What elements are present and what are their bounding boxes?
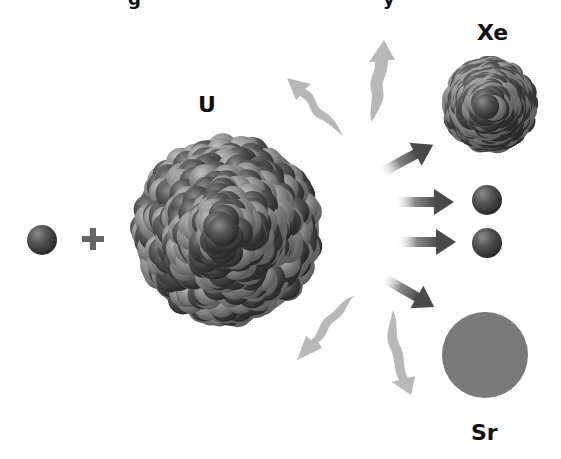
energy-wave-down-left-icon bbox=[297, 296, 354, 360]
energy-wave-down-icon bbox=[387, 310, 415, 395]
incoming-neutron bbox=[27, 225, 57, 255]
arrow-to-neutron-2-icon bbox=[398, 229, 456, 255]
plus-icon bbox=[82, 228, 104, 250]
arrow-to-neutron-1-icon bbox=[396, 189, 454, 215]
diagram-canvas bbox=[0, 0, 561, 459]
xenon-label: Xe bbox=[477, 20, 508, 45]
strontium-nucleus bbox=[442, 312, 528, 398]
energy-wave-up-icon bbox=[369, 40, 395, 122]
xenon-nucleus bbox=[442, 56, 538, 153]
released-neutron-1 bbox=[472, 185, 502, 215]
energy-wave-up-left-icon bbox=[287, 78, 343, 136]
strontium-label: Sr bbox=[471, 420, 498, 445]
uranium-nucleus bbox=[130, 133, 322, 327]
nuclear-fission-diagram: g y bbox=[0, 0, 561, 459]
released-neutron-2 bbox=[472, 228, 502, 258]
arrow-to-sr-icon bbox=[378, 267, 441, 319]
uranium-label: U bbox=[198, 92, 216, 117]
arrow-to-xe-icon bbox=[376, 133, 439, 183]
